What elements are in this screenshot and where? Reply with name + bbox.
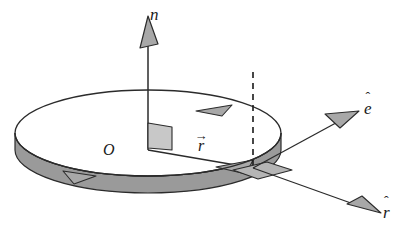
e-hat-accent: ˆ	[365, 91, 370, 105]
n-hat-accent: ˆ	[152, 0, 157, 11]
label-e-hat: ˆ e	[364, 100, 372, 117]
diagram-canvas	[0, 0, 410, 236]
r-hat-arrowhead	[347, 196, 381, 213]
right-angle-marker	[148, 123, 172, 150]
physics-diagram-figure: ˆ n ˆ e ˆ r → r O	[0, 0, 410, 236]
origin-symbol: O	[103, 141, 115, 158]
r-hat-shaft	[253, 168, 362, 207]
perpendicularity-square	[148, 123, 172, 150]
r-vector-accent: →	[195, 129, 208, 142]
label-n-hat: ˆ n	[150, 6, 159, 23]
label-r-vector: → r	[198, 138, 204, 154]
label-r-hat: ˆ r	[383, 204, 390, 221]
radial-vector-r-hat	[253, 168, 381, 213]
r-hat-accent: ˆ	[384, 195, 389, 209]
label-origin: O	[103, 142, 115, 158]
